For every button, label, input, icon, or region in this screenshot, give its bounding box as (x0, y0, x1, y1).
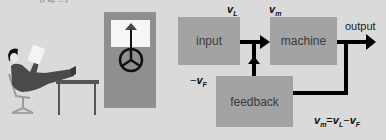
feedback-block: feedback (216, 76, 293, 127)
control-panel (104, 12, 156, 108)
arrow-output (337, 34, 376, 50)
label-vL: vL (227, 3, 237, 17)
feedback-label: feedback (230, 95, 279, 109)
label-minus-vF: −vF (190, 74, 207, 88)
feedback-diagram: (Fig. ...) (0, 0, 386, 140)
label-output: output (345, 20, 376, 32)
input-block: input (178, 17, 240, 65)
label-vm: vm (269, 3, 281, 17)
equation: vm=vL−vF (314, 114, 360, 128)
person-icon (8, 44, 76, 92)
input-label: input (196, 34, 222, 48)
arrow-feedback-up (248, 42, 260, 76)
machine-block: machine (270, 17, 337, 65)
machine-label: machine (281, 34, 326, 48)
table-icon (56, 80, 99, 115)
